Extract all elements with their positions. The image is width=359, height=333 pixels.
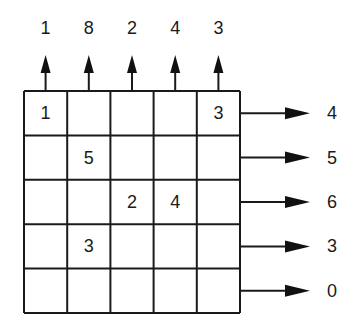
column-output-label: 1 (41, 18, 51, 38)
cell-value: 3 (213, 103, 223, 123)
cell-value: 1 (41, 103, 51, 123)
column-output-label: 2 (127, 18, 137, 38)
grid-cell (24, 224, 67, 268)
row-output-label: 3 (327, 236, 337, 256)
cell-value: 5 (84, 148, 94, 168)
column-arrow: 4 (170, 18, 180, 91)
cell-value: 2 (127, 192, 137, 212)
grid-cell (197, 135, 240, 179)
grid-cell (154, 135, 197, 179)
arrow-up-icon (213, 55, 223, 73)
grid-cell (197, 224, 240, 268)
column-arrows: 18243 (41, 18, 224, 91)
grid-cell (110, 269, 153, 313)
arrow-up-icon (41, 55, 51, 73)
row-arrow: 5 (240, 148, 337, 168)
grid-cell (197, 180, 240, 224)
column-arrow: 8 (84, 18, 94, 91)
grid-cell (67, 269, 110, 313)
arrow-right-icon (285, 107, 310, 119)
grid-cell (24, 269, 67, 313)
row-output-label: 4 (327, 103, 337, 123)
column-arrow: 2 (127, 18, 137, 91)
arrow-right-icon (285, 196, 310, 208)
grid-cell (67, 180, 110, 224)
row-arrow: 4 (240, 103, 337, 123)
grid-cell (154, 91, 197, 135)
row-output-label: 6 (327, 192, 337, 212)
row-output-label: 0 (327, 281, 337, 301)
column-output-label: 4 (170, 18, 180, 38)
grid-projection-diagram: 135243 18243 45630 (0, 0, 359, 333)
grid-cell (110, 135, 153, 179)
cell-value: 4 (170, 192, 180, 212)
column-arrow: 1 (41, 18, 51, 91)
grid-cell (110, 91, 153, 135)
arrow-up-icon (84, 55, 94, 73)
grid-cell (154, 269, 197, 313)
arrow-up-icon (170, 55, 180, 73)
grid-cell (24, 135, 67, 179)
arrow-right-icon (285, 152, 310, 164)
arrow-up-icon (127, 55, 137, 73)
row-output-label: 5 (327, 148, 337, 168)
cell-values: 135243 (24, 91, 240, 313)
arrow-right-icon (285, 240, 310, 252)
row-arrow: 3 (240, 236, 337, 256)
arrow-right-icon (285, 285, 310, 297)
column-output-label: 8 (84, 18, 94, 38)
column-arrow: 3 (213, 18, 223, 91)
row-arrow: 0 (240, 281, 337, 301)
cell-value: 3 (84, 236, 94, 256)
grid-cell (67, 91, 110, 135)
row-arrows: 45630 (240, 103, 337, 301)
row-arrow: 6 (240, 192, 337, 212)
column-output-label: 3 (213, 18, 223, 38)
grid-cell (24, 180, 67, 224)
grid-cell (110, 224, 153, 268)
grid-cell (197, 269, 240, 313)
grid-cell (154, 224, 197, 268)
